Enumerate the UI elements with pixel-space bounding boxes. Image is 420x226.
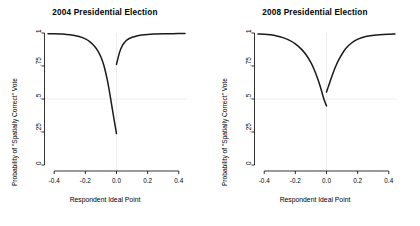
curve-left-branch-2004 — [48, 34, 117, 134]
curve-right-branch-2004 — [117, 34, 186, 65]
x-tick-label: 0.0 — [112, 177, 121, 184]
curve-right-branch-2008 — [327, 34, 396, 92]
y-axis-label-2008: Probability of "Spatially Correct" Vote — [219, 66, 231, 198]
plot-svg-2008 — [258, 33, 395, 165]
plot-svg-2004 — [48, 33, 185, 165]
x-tick-label: 0.4 — [174, 177, 183, 184]
x-axis-label-2004: Respondent Ideal Point — [0, 196, 210, 203]
y-axis-label-2004: Probability of "Spatially Correct" Vote — [9, 66, 21, 198]
x-tick-label: 0.2 — [143, 177, 152, 184]
plot-area-2004: 0.25.5.751-0.4-0.20.00.20.4 — [48, 33, 185, 165]
curve-left-branch-2008 — [258, 34, 327, 106]
plot-area-2008: 0.25.5.751-0.4-0.20.00.20.4 — [258, 33, 395, 165]
panel-2008: 2008 Presidential Election Probability o… — [210, 0, 420, 226]
x-tick-label: 0.4 — [384, 177, 393, 184]
x-tick-label: -0.4 — [259, 177, 270, 184]
panel-title-2004: 2004 Presidential Election — [0, 8, 210, 17]
x-tick-label: -0.2 — [290, 177, 301, 184]
panel-title-2008: 2008 Presidential Election — [210, 8, 420, 17]
x-tick-label: -0.2 — [80, 177, 91, 184]
x-tick-label: 0.2 — [353, 177, 362, 184]
figure-two-panel-plot: 2004 Presidential Election Probability o… — [0, 0, 420, 226]
x-tick-label: 0.0 — [322, 177, 331, 184]
x-axis-label-2008: Respondent Ideal Point — [210, 196, 420, 203]
x-tick-label: -0.4 — [49, 177, 60, 184]
panel-2004: 2004 Presidential Election Probability o… — [0, 0, 210, 226]
